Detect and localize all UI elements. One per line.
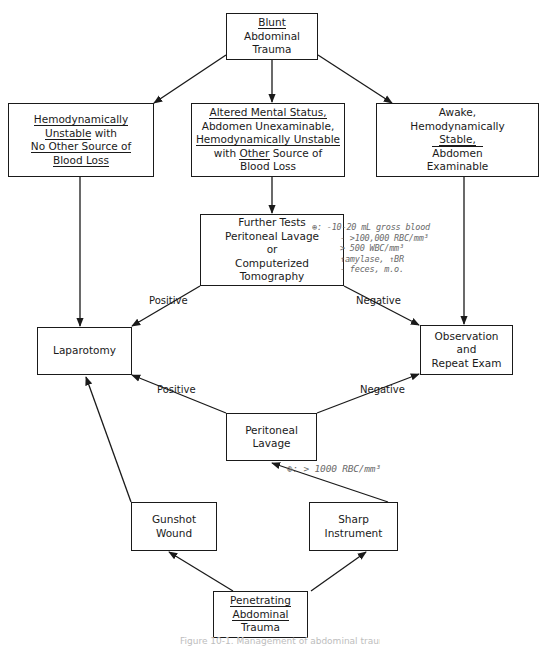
node-text-line: Blunt (258, 16, 286, 30)
node-text-line: Blood Loss (240, 160, 296, 174)
node-text-line: Abdomen (432, 147, 482, 161)
node-text-line: Penetrating (230, 594, 291, 608)
node-observation-repeat-exam: ObservationandRepeat Exam (420, 325, 513, 375)
node-penetrating-abdominal-trauma: PenetratingAbdominalTrauma (213, 591, 308, 638)
node-text-line: Hemodynamically (34, 113, 128, 127)
edge-further-positive (132, 286, 200, 326)
node-altered-mental-status: Altered Mental Status,Abdomen Unexaminab… (191, 103, 345, 177)
node-text-line: Computerized (235, 257, 309, 271)
criteria-line: > 500 WBC/mm³ (312, 243, 430, 254)
edge-blunt-to-unstable (154, 55, 226, 103)
node-blunt-abdominal-trauma: BluntAbdominalTrauma (226, 13, 318, 60)
handwritten-lavage-criteria: ⊕: -10-20 mL gross blood - >100,000 RBC/… (312, 222, 430, 275)
criteria-line: ⊕: -10-20 mL gross blood (312, 222, 430, 233)
edge-penetrating-to-gunshot (169, 552, 233, 591)
node-text-line: Examinable (427, 160, 489, 174)
node-text-line: Instrument (325, 527, 383, 541)
node-text-line: Abdominal (232, 608, 288, 622)
node-text-line: Blood Loss (53, 154, 109, 168)
figure-caption: Figure 10-1. Management of abdominal tra… (180, 636, 380, 648)
edge-penetrating-to-sharp (311, 552, 366, 591)
node-text-line: Stable, (439, 133, 476, 147)
node-awake-stable: Awake,HemodynamicallyStable,AbdomenExami… (376, 103, 539, 177)
handwritten-rbc-threshold: ⊕: > 1000 RBC/mm³ (287, 464, 381, 475)
node-text-line: Trauma (241, 621, 280, 635)
node-text-line: Observation (435, 330, 499, 344)
node-peritoneal-lavage: PeritonealLavage (226, 413, 317, 461)
node-gunshot-wound: GunshotWound (131, 502, 217, 551)
node-text-line: Altered Mental Status, (209, 106, 326, 120)
node-text-line: Wound (156, 527, 192, 541)
label-further-positive: Positive (149, 295, 188, 306)
node-text-line: Further Tests (238, 216, 305, 230)
node-text-line: Awake, (439, 106, 476, 120)
node-text-line: or (267, 243, 278, 257)
node-text-line: No Other Source of (31, 140, 131, 154)
node-sharp-instrument: SharpInstrument (309, 502, 398, 551)
node-text-line: Sharp (338, 513, 369, 527)
node-hemodynamically-unstable: HemodynamicallyUnstable withNo Other Sou… (8, 103, 154, 177)
label-lavage-negative: Negative (360, 384, 405, 395)
label-lavage-positive: Positive (157, 384, 196, 395)
node-laparotomy: Laparotomy (37, 327, 132, 375)
node-text-line: and (457, 343, 477, 357)
criteria-line: - feces, m.o. (312, 264, 430, 275)
label-further-negative: Negative (356, 295, 401, 306)
criteria-line: ↑amylase, ↑BR (312, 254, 430, 265)
edge-gunshot-to-laparotomy (86, 377, 131, 502)
edge-blunt-to-awake (318, 55, 392, 103)
node-text-line: Gunshot (152, 513, 196, 527)
flowchart-edges (0, 0, 547, 648)
node-text-line: Trauma (253, 43, 292, 57)
node-text-line: with Other Source of (214, 147, 322, 161)
node-text-line: Laparotomy (53, 344, 116, 358)
node-text-line: Abdomen Unexaminable, (202, 120, 335, 134)
node-text-line: Hemodynamically (410, 120, 504, 134)
node-text-line: Peritoneal (245, 424, 298, 438)
node-text-line: Repeat Exam (432, 357, 502, 371)
node-text-line: Hemodynamically Unstable (196, 133, 340, 147)
node-text-line: Abdominal (244, 30, 300, 44)
node-text-line: Lavage (252, 437, 290, 451)
node-text-line: Unstable with (45, 127, 117, 141)
criteria-line: - >100,000 RBC/mm³ (312, 233, 430, 244)
node-text-line: Peritoneal Lavage (225, 230, 319, 244)
node-text-line: Tomography (240, 270, 305, 284)
